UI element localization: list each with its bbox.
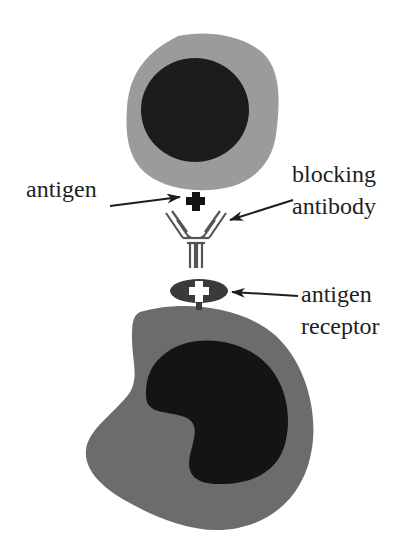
blocking-antibody-arrow: [230, 200, 293, 220]
antigen-receptor-arrow: [232, 292, 298, 296]
bottom-cell: [86, 306, 314, 530]
blocking-antibody-shape: [166, 211, 226, 268]
antigen-arrow: [110, 197, 180, 206]
blocking-antibody-label-line1: blocking: [292, 160, 376, 188]
top-cell-nucleus: [141, 58, 249, 162]
antigen-receptor-label-line2: receptor: [301, 312, 380, 340]
diagram-canvas: [0, 0, 415, 553]
antigen-shape: [186, 192, 205, 211]
top-cell: [126, 33, 278, 190]
antigen-label: antigen: [26, 175, 97, 203]
blocking-antibody-label-line2: antibody: [292, 192, 376, 220]
antigen-receptor-shape: [170, 279, 228, 310]
antigen-receptor-label-line1: antigen: [301, 280, 372, 308]
